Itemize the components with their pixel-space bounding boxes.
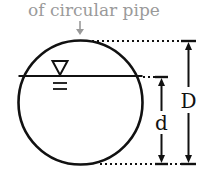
- diameter-dimension: D: [180, 41, 196, 164]
- pipe-diagram: of circular pipe d D: [0, 0, 213, 177]
- caption-text: of circular pipe: [28, 0, 160, 20]
- depth-dimension: d: [155, 77, 168, 164]
- depth-label: d: [155, 111, 168, 135]
- diameter-label: D: [180, 89, 196, 113]
- caption-pointer-arrow-icon: [76, 21, 84, 35]
- pipe-cross-section: [19, 41, 143, 165]
